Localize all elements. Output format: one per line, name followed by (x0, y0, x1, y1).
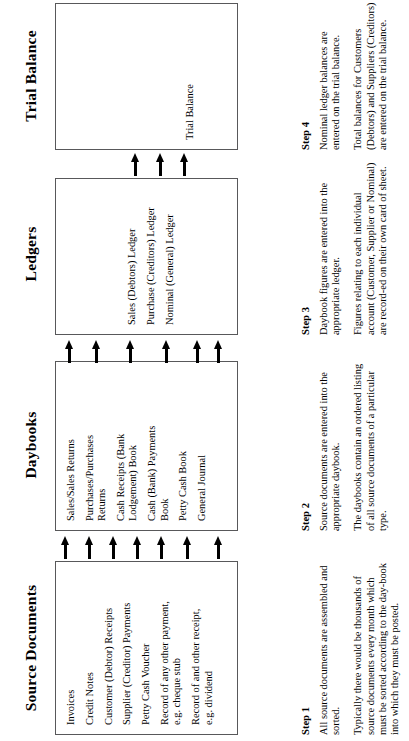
box-item: Customer (Debtor) Receipts (103, 568, 115, 725)
flow-arrow (193, 340, 202, 363)
flow-arrow (157, 536, 166, 559)
box-ledgers: Sales (Debtors) Ledger Purchase (Credito… (55, 178, 238, 335)
box-item: Purchase (Creditors) Ledger (145, 185, 157, 325)
box-item: Record of and other receipt, e.g. divide… (190, 568, 215, 725)
box-item: Sales (Debtors) Ledger (126, 185, 138, 325)
flow-arrow (214, 340, 223, 363)
flow-arrow (183, 536, 192, 559)
flow-arrow (214, 536, 223, 559)
box-item: Petty Cash Voucher (140, 568, 152, 725)
box-item: Nominal (General) Ledger (164, 185, 176, 325)
column-daybooks: Daybooks Sales/Sales Returns Purchases/P… (0, 357, 409, 533)
step-paragraph: Source documents are entered into the ap… (318, 356, 342, 531)
box-item: Trial Balance (184, 10, 196, 140)
box-item: Petty Cash Book (177, 368, 189, 521)
step-block-2: Step 2 Source documents are entered into… (300, 356, 389, 531)
box-item: Supplier (Creditor) Payments (121, 568, 133, 725)
column-ledgers: Ledgers Sales (Debtors) Ledger Purchase … (0, 171, 409, 337)
step-paragraph: Typically there would be thousands of so… (352, 560, 401, 735)
box-item: Invoices (65, 568, 77, 725)
box-trial-balance: Trial Balance (55, 3, 238, 150)
diagram-stage: Source Documents Invoices Credit Notes C… (0, 0, 409, 741)
step-block-4: Step 4 Nominal ledger balances are enter… (300, 2, 389, 150)
box-items-daybooks: Sales/Sales Returns Purchases/Purchases … (65, 368, 215, 521)
flow-arrows-daybooks-to-ledgers (0, 337, 409, 363)
step-label-2: Step 2 (300, 356, 311, 531)
column-source-documents: Source Documents Invoices Credit Notes C… (0, 555, 409, 741)
box-item: Record of any other payment, e.g. cheque… (159, 568, 184, 725)
column-heading-trial-balance: Trial Balance (22, 0, 40, 152)
flow-arrow (92, 340, 101, 363)
step-label-4: Step 4 (300, 2, 311, 150)
box-item: Purchases/Purchases Returns (84, 368, 109, 521)
step-paragraph: The daybooks contain an ordered listing … (352, 356, 389, 531)
box-daybooks: Sales/Sales Returns Purchases/Purchases … (55, 361, 238, 531)
flow-arrow (180, 153, 189, 176)
flow-arrow (131, 153, 140, 176)
flow-arrows-source-to-daybooks (0, 533, 409, 559)
flow-arrow (133, 536, 142, 559)
flow-arrow (65, 340, 74, 363)
step-block-3: Step 3 Daybook figures are entered into … (300, 160, 389, 335)
flow-arrow (156, 153, 165, 176)
step-paragraph: Figures relating to each individual acco… (352, 160, 389, 335)
step-paragraph: Total balances for Customers (Debtors) a… (352, 2, 389, 150)
column-heading-ledgers: Ledgers (22, 171, 40, 337)
box-item: Cash Receipts (Bank Lodgement) Book (115, 368, 140, 521)
box-item: Credit Notes (84, 568, 96, 725)
flow-arrow (126, 340, 135, 363)
box-source-documents: Invoices Credit Notes Customer (Debtor) … (55, 561, 238, 735)
box-item: Cash (Bank) Payments Book (146, 368, 171, 521)
flow-arrows-ledgers-to-trialbalance (0, 150, 409, 176)
box-items-ledgers: Sales (Debtors) Ledger Purchase (Credito… (126, 185, 182, 325)
diagram-canvas: Source Documents Invoices Credit Notes C… (0, 0, 409, 741)
flow-arrow (109, 536, 118, 559)
step-label-3: Step 3 (300, 160, 311, 335)
box-item: General Journal (196, 368, 208, 521)
column-heading-daybooks: Daybooks (22, 357, 40, 533)
box-items-trial-balance: Trial Balance (184, 10, 203, 140)
box-items-source-documents: Invoices Credit Notes Customer (Debtor) … (65, 568, 221, 725)
column-heading-source-documents: Source Documents (22, 555, 40, 741)
step-paragraph: All source documents are assembled and s… (318, 560, 342, 735)
flow-arrow (162, 340, 171, 363)
step-block-1: Step 1 All source documents are assemble… (300, 560, 401, 735)
flow-arrow (61, 536, 70, 559)
column-trial-balance: Trial Balance Trial Balance Step 4 Nomin… (0, 0, 409, 152)
step-label-1: Step 1 (300, 560, 311, 735)
box-item: Sales/Sales Returns (65, 368, 77, 521)
step-paragraph: Daybook figures are entered into the app… (318, 160, 342, 335)
flow-arrow (85, 536, 94, 559)
step-paragraph: Nominal ledger balances are entered on t… (318, 2, 342, 150)
